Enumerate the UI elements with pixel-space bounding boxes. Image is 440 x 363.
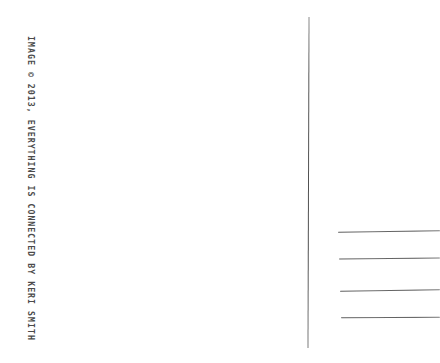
address-line-1[interactable] <box>338 230 440 233</box>
address-line-3[interactable] <box>340 289 440 292</box>
address-line-4[interactable] <box>341 317 440 319</box>
postcard-back: IMAGE © 2013, EVERYTHING IS CONNECTED BY… <box>0 0 440 363</box>
credit-block: IMAGE © 2013, EVERYTHING IS CONNECTED BY… <box>22 36 40 356</box>
address-line-2[interactable] <box>339 258 440 260</box>
vertical-divider-line <box>307 17 309 348</box>
copyright-credit-text: IMAGE © 2013, EVERYTHING IS CONNECTED BY… <box>27 36 35 341</box>
